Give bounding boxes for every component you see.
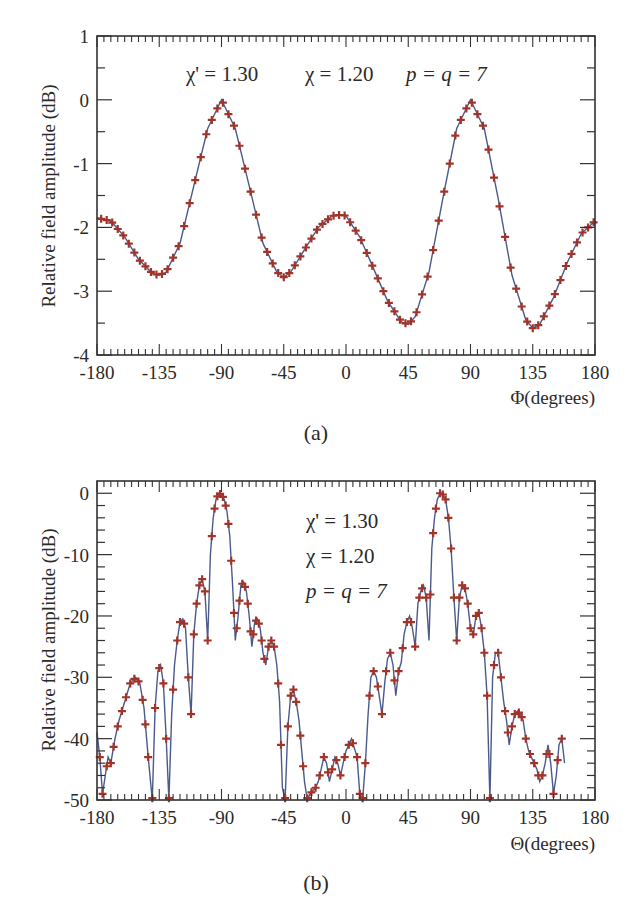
- plus-marker-icon: [357, 236, 365, 244]
- plus-marker-icon: [501, 707, 509, 715]
- x-tick-label: -90: [209, 807, 234, 828]
- plus-marker-icon: [361, 759, 369, 767]
- chart-b-plot-area: [96, 489, 566, 802]
- y-tick-label: -50: [64, 790, 89, 811]
- plus-marker-icon: [175, 242, 183, 250]
- plus-marker-icon: [558, 735, 566, 743]
- plus-marker-icon: [269, 259, 277, 267]
- plus-marker-icon: [122, 693, 130, 701]
- plus-marker-icon: [341, 753, 349, 761]
- plus-marker-icon: [219, 99, 227, 107]
- chart-a-chi-prime: χ' = 1.30: [185, 62, 258, 86]
- plus-marker-icon: [530, 759, 538, 767]
- plus-marker-icon: [473, 110, 481, 118]
- plus-marker-icon: [353, 753, 361, 761]
- plus-marker-icon: [316, 771, 324, 779]
- plus-marker-icon: [399, 644, 407, 652]
- plus-marker-icon: [385, 299, 393, 307]
- plus-marker-icon: [496, 202, 504, 210]
- plus-marker-icon: [141, 720, 149, 728]
- y-tick-label: 0: [80, 483, 90, 504]
- x-tick-label: 45: [399, 362, 418, 383]
- plus-marker-icon: [413, 308, 421, 316]
- plus-marker-icon: [320, 753, 328, 761]
- plus-marker-icon: [244, 600, 252, 608]
- plus-marker-icon: [429, 246, 437, 254]
- plus-marker-icon: [507, 264, 515, 272]
- plus-marker-icon: [390, 307, 398, 315]
- plus-marker-icon: [562, 262, 570, 270]
- plus-marker-icon: [457, 116, 465, 124]
- plus-marker-icon: [110, 743, 118, 751]
- plus-marker-icon: [483, 692, 491, 700]
- x-tick-label: -135: [142, 362, 177, 383]
- plus-marker-icon: [345, 741, 353, 749]
- plus-marker-icon: [224, 110, 232, 118]
- plus-marker-icon: [201, 587, 209, 595]
- plus-marker-icon: [508, 722, 516, 730]
- plus-marker-icon: [374, 274, 382, 282]
- chart-a-plot-area: [97, 99, 598, 333]
- plus-marker-icon: [478, 624, 486, 632]
- plus-marker-icon: [307, 235, 315, 243]
- plus-marker-icon: [480, 649, 488, 657]
- chart-b-chi: χ = 1.20: [305, 544, 374, 568]
- marker-series: [97, 99, 597, 333]
- plus-marker-icon: [235, 142, 243, 150]
- plus-marker-icon: [424, 273, 432, 281]
- x-tick-label: 45: [399, 807, 418, 828]
- plus-marker-icon: [227, 557, 235, 565]
- plus-marker-icon: [447, 544, 455, 552]
- chart-b-axes: -180-135-90-4504590135180-50-40-30-20-10…: [64, 481, 610, 828]
- y-tick-label: -4: [73, 345, 89, 366]
- x-tick-label: 90: [461, 362, 480, 383]
- plus-marker-icon: [169, 254, 177, 262]
- plus-marker-icon: [512, 285, 520, 293]
- chart-b-pq: p = q = 7: [304, 579, 388, 603]
- plus-marker-icon: [193, 600, 201, 608]
- plus-marker-icon: [486, 794, 494, 802]
- y-tick-label: -1: [73, 154, 89, 175]
- plus-marker-icon: [222, 502, 230, 510]
- plus-marker-icon: [429, 529, 437, 537]
- plus-marker-icon: [522, 735, 530, 743]
- plus-marker-icon: [263, 248, 271, 256]
- plus-marker-icon: [455, 594, 463, 602]
- plus-marker-icon: [446, 160, 454, 168]
- curve-line: [97, 493, 565, 800]
- plus-marker-icon: [368, 262, 376, 270]
- plus-marker-icon: [187, 710, 195, 718]
- x-tick-label: 135: [519, 362, 548, 383]
- plus-marker-icon: [118, 707, 126, 715]
- plus-marker-icon: [432, 505, 440, 513]
- plus-marker-icon: [545, 302, 553, 310]
- plus-marker-icon: [299, 762, 307, 770]
- y-tick-label: -10: [64, 545, 89, 566]
- chart-b-y-axis-title: Relative field amplitude (dB): [38, 528, 60, 751]
- plus-marker-icon: [551, 290, 559, 298]
- chart-a-y-axis-title: Relative field amplitude (dB): [38, 84, 60, 307]
- plus-marker-icon: [190, 630, 198, 638]
- figure-canvas: -180-135-90-4504590135180-4-3-2-101 Rela…: [0, 0, 639, 920]
- plus-marker-icon: [292, 698, 300, 706]
- plus-marker-icon: [180, 222, 188, 230]
- plus-marker-icon: [230, 122, 238, 130]
- plus-marker-icon: [151, 704, 159, 712]
- plus-marker-icon: [453, 637, 461, 645]
- plus-marker-icon: [411, 643, 419, 651]
- plus-marker-icon: [277, 741, 285, 749]
- x-tick-label: -135: [142, 807, 177, 828]
- plus-marker-icon: [468, 99, 476, 107]
- plus-marker-icon: [202, 130, 210, 138]
- plus-marker-icon: [296, 252, 304, 260]
- plus-marker-icon: [284, 722, 292, 730]
- plus-marker-icon: [159, 679, 167, 687]
- plus-marker-icon: [418, 290, 426, 298]
- plus-marker-icon: [379, 287, 387, 295]
- chart-a: -180-135-90-4504590135180-4-3-2-101 Rela…: [38, 26, 609, 445]
- y-tick-label: -40: [64, 729, 89, 750]
- plus-marker-icon: [554, 756, 562, 764]
- plus-marker-icon: [130, 249, 138, 257]
- plus-marker-icon: [247, 188, 255, 196]
- chart-a-pq: p = q = 7: [404, 62, 488, 86]
